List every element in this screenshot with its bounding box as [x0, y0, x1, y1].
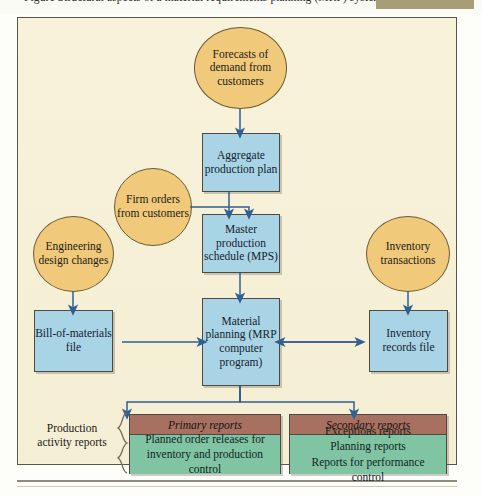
node-inventory-transactions: Inventory transactions — [366, 216, 450, 292]
node-material-planning-mrp: Material planning (MRP computer program) — [202, 298, 280, 386]
diagram-frame: Forecasts of demand from customers Firm … — [17, 17, 457, 465]
primary-reports-body: Planned order releases for inventory and… — [130, 435, 280, 474]
caption-text: Figure Structural aspects of a material … — [24, 0, 382, 3]
node-firm-orders-label: Firm orders from customers — [115, 193, 191, 220]
primary-reports-panel: Primary reports Planned order releases f… — [129, 414, 281, 474]
secondary-reports-lines: Exceptions reports Planning reports Repo… — [294, 424, 442, 485]
node-master-production-schedule: Master production schedule (MPS) — [202, 214, 280, 273]
curly-brace-icon — [115, 412, 129, 474]
primary-reports-title-text: Primary reports — [168, 419, 242, 431]
node-aggregate-plan-label: Aggregate production plan — [203, 149, 279, 176]
node-engineering-label: Engineering design changes — [34, 240, 113, 267]
node-mrp-label: Material planning (MRP computer program) — [203, 315, 279, 369]
clipped-caption-strip: Figure Structural aspects of a material … — [0, 0, 482, 14]
node-inventory-records-file: Inventory records file — [369, 310, 448, 372]
production-activity-reports-text: Production activity reports — [37, 422, 106, 448]
node-inventory-transactions-label: Inventory transactions — [367, 240, 449, 267]
primary-reports-lines: Planned order releases for inventory and… — [138, 432, 272, 478]
node-forecasts: Forecasts of demand from customers — [194, 27, 287, 109]
node-inventory-records-label: Inventory records file — [370, 327, 447, 354]
secondary-reports-panel: Secondary reports Exceptions reports Pla… — [289, 414, 447, 474]
production-activity-reports-label: Production activity reports — [32, 422, 112, 450]
node-firm-orders: Firm orders from customers — [114, 168, 192, 246]
node-aggregate-production-plan: Aggregate production plan — [202, 133, 280, 192]
node-bill-of-materials-file: Bill-of-materials file — [34, 310, 113, 372]
node-engineering-design-changes: Engineering design changes — [33, 216, 114, 292]
node-forecasts-label: Forecasts of demand from customers — [195, 48, 286, 89]
node-mps-label: Master production schedule (MPS) — [203, 223, 279, 264]
figure-page: Figure Structural aspects of a material … — [0, 0, 482, 496]
node-bom-label: Bill-of-materials file — [35, 327, 112, 354]
secondary-reports-body: Exceptions reports Planning reports Repo… — [290, 435, 446, 474]
caption-swatch — [376, 0, 474, 9]
bottom-divider-secondary — [17, 486, 457, 487]
